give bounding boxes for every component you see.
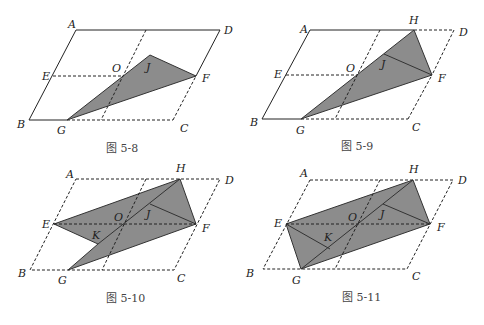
label-o: O — [346, 62, 355, 75]
label-b: B — [245, 267, 254, 280]
label-f: F — [437, 72, 446, 85]
figure-5-11: A H D E O J K F B G C 图 5-11 — [245, 163, 467, 304]
figure-5-8: A D E O J F B G C 图 5-8 — [16, 18, 233, 155]
caption: 图 5-11 — [342, 291, 381, 304]
label-d: D — [458, 26, 468, 39]
label-o: O — [112, 62, 121, 75]
label-h: H — [408, 14, 419, 27]
label-c: C — [180, 122, 189, 135]
label-f: F — [201, 72, 210, 85]
label-d: D — [224, 174, 234, 187]
label-b: B — [16, 118, 25, 131]
label-d: D — [223, 24, 233, 37]
label-g: G — [57, 124, 66, 137]
caption: 图 5-10 — [106, 292, 145, 305]
label-e: E — [273, 68, 282, 81]
label-j: J — [379, 58, 386, 71]
edge-df — [432, 30, 454, 75]
label-e: E — [41, 70, 50, 83]
label-a: A — [299, 167, 308, 180]
label-j: J — [378, 208, 385, 221]
label-a: A — [65, 168, 74, 181]
label-g: G — [296, 124, 305, 137]
label-k: K — [91, 229, 101, 242]
folding-diagrams: A D E O J F B G C 图 5-8 A H D E O J F B … — [0, 0, 484, 325]
label-c: C — [412, 270, 421, 283]
label-o: O — [348, 211, 357, 224]
label-j: J — [144, 208, 151, 221]
caption: 图 5-9 — [341, 140, 373, 153]
label-a: A — [299, 23, 308, 36]
label-k: K — [323, 231, 333, 244]
label-e: E — [273, 217, 282, 230]
folded-flap — [301, 30, 432, 119]
label-c: C — [177, 272, 186, 285]
label-h: H — [408, 163, 419, 176]
label-e: E — [41, 218, 50, 231]
label-b: B — [17, 267, 26, 280]
folded-flap — [67, 55, 196, 120]
label-a: A — [67, 18, 76, 31]
label-b: B — [249, 116, 258, 129]
label-j: J — [144, 61, 151, 74]
label-g: G — [292, 274, 301, 287]
label-f: F — [201, 222, 210, 235]
label-f: F — [436, 221, 445, 234]
label-d: D — [457, 174, 467, 187]
label-g: G — [58, 274, 67, 287]
figure-5-9: A H D E O J F B G C 图 5-9 — [249, 14, 468, 153]
label-h: H — [175, 162, 186, 175]
label-o: O — [114, 211, 123, 224]
label-c: C — [412, 121, 421, 134]
figure-5-10: A H D E O J K F B G C 图 5-10 — [17, 162, 234, 305]
caption: 图 5-8 — [106, 142, 138, 155]
